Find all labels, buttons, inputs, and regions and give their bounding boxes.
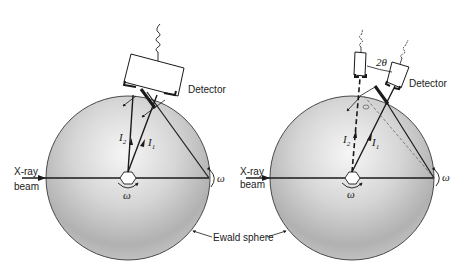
detector-rotated-cable-right	[400, 58, 402, 64]
two-theta-label-right: 2θ	[376, 56, 388, 68]
detector-label-left: Detector	[188, 84, 226, 95]
detector-rotated-coil-right	[401, 40, 408, 58]
beam-label-line1-right: X-ray	[240, 166, 264, 177]
crystal-left	[120, 172, 136, 184]
ewald-leader-left	[193, 231, 212, 237]
right-panel: 2θ Detector X-ray beam I2 I1 ω ω	[240, 29, 450, 260]
small-arrow-b-right	[360, 87, 375, 96]
cable-coil-left	[156, 24, 160, 52]
detector-original-coil-right	[360, 29, 363, 47]
detector-original-right	[354, 52, 366, 76]
detector-rotated-right	[387, 62, 409, 88]
ewald-diagram: Detector X-ray beam I2 I1 ω ω	[0, 0, 465, 277]
beam-arrowhead-left	[38, 175, 46, 181]
beam-label-line2-left: beam	[14, 181, 39, 192]
omega-center-label-right: ω	[347, 188, 355, 200]
omega-edge-label-right: ω	[442, 171, 450, 183]
rotation-arrow-edge-left	[210, 170, 214, 187]
rotation-arrow-edge-right	[435, 170, 439, 186]
detector-left	[124, 54, 184, 96]
left-panel: Detector X-ray beam I2 I1 ω ω	[14, 24, 226, 260]
detector-label-right: Detector	[409, 78, 447, 89]
omega-edge-label-left: ω	[217, 172, 225, 184]
beam-label-line1-left: X-ray	[14, 166, 38, 177]
beam-label-line2-right: beam	[240, 179, 265, 190]
ewald-label-group: Ewald sphere	[193, 231, 286, 243]
ewald-sphere-label: Ewald sphere	[213, 232, 274, 243]
omega-center-label-left: ω	[123, 189, 131, 201]
